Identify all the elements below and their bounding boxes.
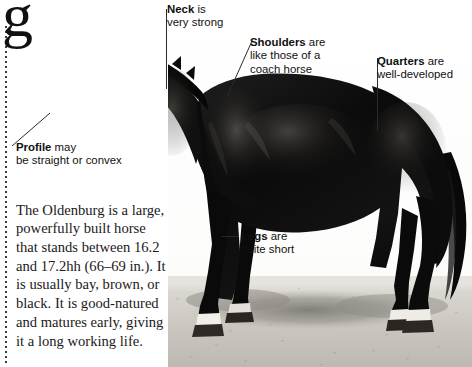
callout-profile-keyword: Profile <box>16 141 51 153</box>
callout-legs-line2: quite short <box>241 243 294 256</box>
leader-line-legs <box>222 236 239 237</box>
callout-legs: Legs are quite short <box>241 230 294 257</box>
cut-off-heading-glyph: g <box>2 0 33 46</box>
callout-neck: Neck is very strong <box>167 3 223 30</box>
callout-shoulders: Shoulders are like those of a coach hors… <box>250 36 325 76</box>
callout-legs-text: are <box>268 230 288 242</box>
callout-shoulders-line2: like those of a <box>250 49 325 62</box>
callout-shoulders-line3: coach horse <box>250 63 325 76</box>
callout-shoulders-text: are <box>306 36 326 48</box>
left-dotted-rule <box>5 26 7 364</box>
breed-description-paragraph: The Oldenburg is a large, powerfully bui… <box>16 201 168 351</box>
callout-quarters-text: are <box>424 55 444 67</box>
callout-profile: Profile may be straight or convex <box>16 141 122 168</box>
page-root: g Neck is very strong Shoulders are like… <box>0 0 472 367</box>
callout-quarters-line2: well-developed <box>377 68 453 81</box>
callout-shoulders-keyword: Shoulders <box>250 36 306 48</box>
callout-quarters: Quarters are well-developed <box>377 55 453 82</box>
callout-neck-text: is <box>194 3 205 15</box>
callout-neck-line2: very strong <box>167 16 223 29</box>
callout-neck-keyword: Neck <box>167 3 194 15</box>
callout-profile-line2: be straight or convex <box>16 154 122 167</box>
callout-legs-keyword: Legs <box>241 230 268 242</box>
callout-profile-text: may <box>51 141 76 153</box>
quarters-text-panel <box>368 0 472 60</box>
callout-quarters-keyword: Quarters <box>377 55 424 67</box>
